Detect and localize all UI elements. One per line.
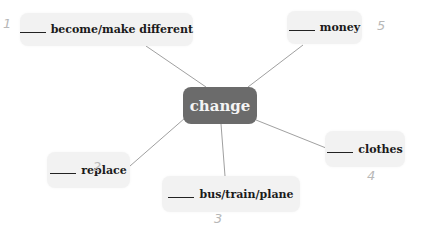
node-clothes: clothes [325,131,405,167]
node-replace: replace [47,152,130,188]
node-label: replace [81,164,127,177]
answer-blank[interactable] [289,30,315,31]
center-node: change [183,87,257,124]
node-bus-train-plane: bus/train/plane [162,176,300,212]
handwritten-number-1: 1 [3,16,11,31]
connector-clothes [256,120,326,148]
connector-replace [130,118,185,166]
answer-blank[interactable] [20,32,46,33]
node-label: clothes [358,143,402,156]
node-label: become/make different [51,23,193,36]
answer-blank[interactable] [168,197,194,198]
node-money: money [287,11,362,44]
connector-become [146,46,206,87]
node-label: money [320,21,360,34]
answer-blank[interactable] [327,152,353,153]
handwritten-number-5: 5 [377,18,385,33]
connector-money [248,45,303,87]
handwritten-number-2: 2 [93,159,101,174]
answer-blank[interactable] [50,173,76,174]
handwritten-number-3: 3 [214,211,222,226]
connector-bus [221,124,225,176]
node-become-make-different: become/make different [20,13,193,46]
handwritten-number-4: 4 [367,168,375,183]
node-label: bus/train/plane [199,188,293,201]
center-label: change [190,97,251,115]
